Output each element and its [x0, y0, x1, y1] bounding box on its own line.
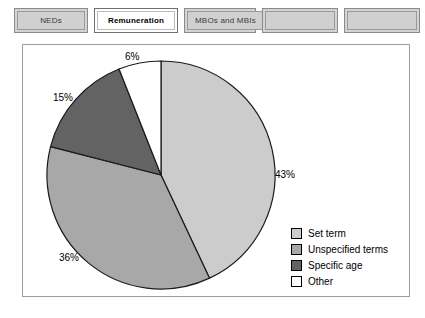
legend-label-unspecified-terms: Unspecified terms [308, 244, 388, 255]
tab-mbos-and-mbis[interactable]: MBOs and MBIs [184, 8, 256, 33]
tab-empty-1-label [265, 11, 335, 30]
legend-label-set-term: Set term [308, 228, 346, 239]
pie-value-label-specific-age: 15% [53, 92, 73, 103]
pie-value-label-other: 6% [125, 51, 139, 62]
chart-panel: 43% 36% 15% 6% Set term Unspecified term… [22, 44, 410, 297]
tab-empty-1[interactable] [262, 8, 338, 33]
tab-bar: NEDs Remuneration MBOs and MBIs [0, 0, 425, 40]
legend-item-other: Other [291, 275, 388, 288]
legend-swatch-other [291, 276, 302, 287]
pie-value-label-set-term: 43% [275, 169, 295, 180]
tab-remuneration[interactable]: Remuneration [94, 8, 178, 33]
pie-value-label-unspecified-terms: 36% [59, 252, 79, 263]
tab-remuneration-label: Remuneration [97, 11, 175, 30]
tab-empty-2-label [347, 11, 417, 30]
legend-swatch-set-term [291, 228, 302, 239]
legend-label-other: Other [308, 276, 333, 287]
legend-item-unspecified-terms: Unspecified terms [291, 243, 388, 256]
legend-swatch-specific-age [291, 260, 302, 271]
pie-slice-group [47, 61, 275, 289]
chart-legend: Set term Unspecified terms Specific age … [291, 227, 388, 288]
tab-mbos-and-mbis-label: MBOs and MBIs [187, 11, 264, 30]
legend-item-specific-age: Specific age [291, 259, 388, 272]
tab-empty-2[interactable] [344, 8, 420, 33]
tab-neds[interactable]: NEDs [14, 8, 88, 33]
legend-label-specific-age: Specific age [308, 260, 362, 271]
legend-swatch-unspecified-terms [291, 244, 302, 255]
legend-item-set-term: Set term [291, 227, 388, 240]
tab-neds-label: NEDs [17, 11, 85, 30]
